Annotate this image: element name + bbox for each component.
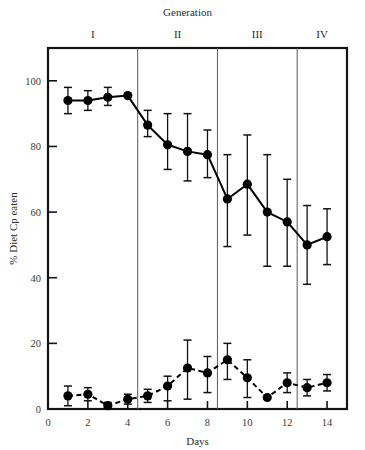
y-axis-title: % Diet Cp eaten <box>7 192 19 265</box>
data-point-upper-day-2 <box>83 96 92 105</box>
data-point-upper-day-12 <box>283 217 292 226</box>
data-point-upper-day-8 <box>203 150 212 159</box>
generation-label-I: I <box>91 28 95 40</box>
data-point-lower-day-3 <box>103 401 112 410</box>
data-point-upper-day-11 <box>263 207 272 216</box>
data-point-upper-day-13 <box>303 240 312 249</box>
x-tick-label-14: 14 <box>322 417 333 428</box>
data-point-lower-day-12 <box>283 378 292 387</box>
data-point-lower-day-10 <box>243 373 252 382</box>
data-point-upper-day-9 <box>223 194 232 203</box>
generation-label-III: III <box>252 28 263 40</box>
data-point-upper-day-14 <box>322 232 331 241</box>
data-point-upper-day-1 <box>63 96 72 105</box>
data-point-lower-day-6 <box>163 381 172 390</box>
data-point-lower-day-5 <box>143 391 152 400</box>
data-point-upper-day-5 <box>143 121 152 130</box>
y-tick-label-60: 60 <box>31 207 42 218</box>
x-tick-label-4: 4 <box>125 417 131 428</box>
generation-label-IV: IV <box>316 28 328 40</box>
data-point-lower-day-7 <box>183 363 192 372</box>
data-point-upper-day-7 <box>183 147 192 156</box>
data-point-lower-day-13 <box>303 383 312 392</box>
data-point-lower-day-14 <box>322 378 331 387</box>
y-tick-label-80: 80 <box>31 141 42 152</box>
error-bars-lower <box>64 340 331 409</box>
x-tick-label-12: 12 <box>282 417 293 428</box>
x-tick-label-8: 8 <box>205 417 210 428</box>
data-point-lower-day-9 <box>223 355 232 364</box>
error-bars-upper <box>64 87 331 284</box>
data-point-upper-day-6 <box>163 140 172 149</box>
data-point-lower-day-1 <box>63 391 72 400</box>
diet-consumption-chart: GenerationIIIIIIIV0204060801000246810121… <box>0 0 365 450</box>
y-tick-label-20: 20 <box>31 338 42 349</box>
data-point-lower-day-2 <box>83 390 92 399</box>
generation-axis-title: Generation <box>163 6 212 18</box>
x-tick-label-0: 0 <box>45 417 50 428</box>
generation-label-II: II <box>174 28 182 40</box>
y-tick-label-100: 100 <box>25 76 41 87</box>
data-point-upper-day-10 <box>243 180 252 189</box>
data-point-lower-day-4 <box>123 395 132 404</box>
x-tick-label-10: 10 <box>242 417 253 428</box>
data-point-upper-day-3 <box>103 93 112 102</box>
x-axis-title: Days <box>186 435 209 447</box>
figure-container: GenerationIIIIIIIV0204060801000246810121… <box>0 0 365 450</box>
data-point-lower-day-8 <box>203 368 212 377</box>
y-tick-label-40: 40 <box>31 273 42 284</box>
data-point-lower-day-11 <box>263 393 272 402</box>
plot-frame <box>48 48 347 409</box>
x-tick-label-2: 2 <box>85 417 90 428</box>
data-point-upper-day-4 <box>123 91 132 100</box>
y-tick-label-0: 0 <box>36 404 41 415</box>
x-tick-label-6: 6 <box>165 417 170 428</box>
